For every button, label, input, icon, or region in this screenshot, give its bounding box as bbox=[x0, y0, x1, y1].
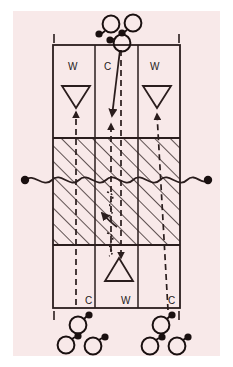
ball-icon-top-1 bbox=[95, 30, 102, 37]
waiting-player-br-2-stem bbox=[156, 338, 159, 340]
waiting-player-bl-2-stem bbox=[72, 337, 75, 339]
zone-label-bottom-right: C bbox=[168, 295, 175, 306]
ball-icon-br-1 bbox=[168, 311, 175, 318]
ball-icon-br-3 bbox=[184, 333, 191, 340]
player-bottom-center[interactable] bbox=[105, 258, 133, 281]
zone-label-bottom-center: W bbox=[121, 295, 131, 306]
waiting-player-br-1[interactable] bbox=[153, 317, 170, 334]
waiting-player-bl-3-stem bbox=[99, 338, 102, 340]
ball-icon-top-3 bbox=[106, 36, 113, 43]
player-top-left-wing[interactable] bbox=[62, 86, 90, 108]
net-post-right-icon bbox=[204, 176, 212, 184]
serve-ball-path bbox=[112, 50, 120, 116]
zone-label-top-left: W bbox=[68, 61, 78, 72]
ball-icon-bl-3 bbox=[101, 333, 108, 340]
attack-zone-hatch bbox=[53, 138, 180, 245]
queue-bottom-left-group bbox=[58, 311, 109, 354]
waiting-player-br-3[interactable] bbox=[169, 338, 186, 355]
zone-label-bottom-left: C bbox=[85, 295, 92, 306]
waiting-player-top-3[interactable] bbox=[114, 35, 131, 52]
zone-label-top-right: W bbox=[150, 61, 160, 72]
player-top-right-wing[interactable] bbox=[143, 86, 171, 108]
queue-bottom-right-group bbox=[142, 311, 192, 354]
diagram-root: W C W C W C bbox=[0, 0, 233, 367]
waiting-player-bl-2[interactable] bbox=[58, 337, 75, 354]
court-diagram-svg: W C W C W C bbox=[0, 0, 233, 367]
zone-label-top-center: C bbox=[104, 61, 111, 72]
ball-icon-bl-1 bbox=[85, 311, 92, 318]
net-post-left-icon bbox=[21, 176, 29, 184]
waiting-player-bl-1[interactable] bbox=[70, 317, 87, 334]
waiting-player-br-2[interactable] bbox=[142, 338, 159, 355]
waiting-player-top-2[interactable] bbox=[125, 15, 142, 32]
ball-icon-bl-2 bbox=[74, 332, 81, 339]
ball-icon-br-2 bbox=[158, 333, 165, 340]
waiting-player-bl-3[interactable] bbox=[85, 338, 102, 355]
waiting-player-top-1[interactable] bbox=[103, 16, 120, 33]
